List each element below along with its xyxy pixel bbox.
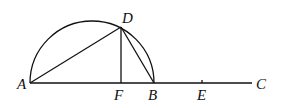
label-c: C: [256, 76, 267, 92]
label-f: F: [113, 87, 124, 103]
geometry-diagram: A D F B E C: [0, 0, 283, 108]
segment-db: [121, 27, 154, 83]
label-a: A: [16, 76, 27, 92]
label-d: D: [121, 10, 133, 26]
diagram-svg: A D F B E C: [0, 0, 283, 108]
label-b: B: [148, 87, 157, 103]
segment-ad: [30, 27, 121, 83]
label-e: E: [196, 87, 206, 103]
